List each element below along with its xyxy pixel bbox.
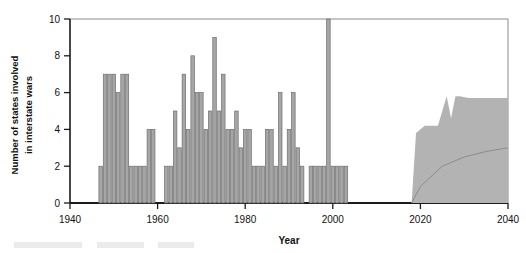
bar [327,19,331,203]
bar [296,148,300,203]
bar [344,166,348,203]
bar [230,129,234,203]
bar [314,166,318,203]
bar [261,166,265,203]
bar [191,56,195,203]
y-axis-ticks: 0246810 [49,14,70,209]
cropped-caption-text [14,242,194,248]
interstate-wars-chart: 0246810 194019601980200020202040 Number … [0,0,526,253]
bar [283,166,287,203]
y-tick-label: 0 [54,198,60,209]
x-tick-label: 1940 [59,214,82,225]
x-tick-label: 1980 [234,214,257,225]
bar [265,129,269,203]
x-tick-label: 1960 [146,214,169,225]
y-axis-title-line1: Number of states involved [9,55,20,174]
bar [125,74,129,203]
bar [309,166,313,203]
uncertainty-band-area [412,96,508,203]
bar [222,74,226,203]
bar [112,74,116,203]
bar [257,166,261,203]
bar [200,93,204,203]
chart-figure: 0246810 194019601980200020202040 Number … [0,0,526,253]
y-tick-label: 8 [54,50,60,61]
bar [322,166,326,203]
bar [239,148,243,203]
bar [99,166,103,203]
bar [130,166,134,203]
bar [300,166,304,203]
x-tick-label: 2020 [409,214,432,225]
bar [331,166,335,203]
bar [169,166,173,203]
bar [178,148,182,203]
bar [108,74,112,203]
bar [173,111,177,203]
y-axis-title-line2: in interstate wars [23,76,34,154]
x-axis-title: Year [278,235,299,246]
bar [208,111,212,203]
bar [340,166,344,203]
bar [116,93,120,203]
bar [147,129,151,203]
x-tick-label: 2000 [322,214,345,225]
bar [103,74,107,203]
bar [151,129,155,203]
uncertainty-band [412,96,508,203]
bar [138,166,142,203]
bar [274,166,278,203]
y-axis-title: Number of states involved in interstate … [9,55,34,174]
bar [121,74,125,203]
bar [270,129,274,203]
bar [187,129,191,203]
y-tick-label: 4 [54,124,60,135]
bar [134,166,138,203]
bar [165,166,169,203]
y-tick-label: 2 [54,161,60,172]
x-tick-label: 2040 [497,214,520,225]
bar [204,129,208,203]
y-tick-label: 10 [49,14,61,25]
bar [292,93,296,203]
bar [248,129,252,203]
bar [143,166,147,203]
bar [213,37,217,203]
bar [195,93,199,203]
bar [287,129,291,203]
bar [226,129,230,203]
bar [217,111,221,203]
x-axis-ticks: 194019601980200020202040 [59,203,520,225]
y-tick-label: 6 [54,87,60,98]
bars-layer [99,19,348,203]
bar [252,166,256,203]
bar [235,111,239,203]
bar [182,74,186,203]
bar [243,129,247,203]
bar [318,166,322,203]
bar [278,93,282,203]
bar [335,166,339,203]
